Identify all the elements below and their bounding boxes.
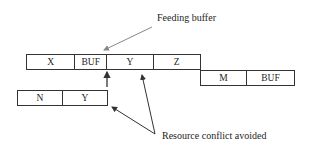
feeding-buffer-arrow-icon bbox=[104, 27, 152, 50]
conflict-arrow-to-critical-y-icon bbox=[142, 75, 155, 134]
diagram-canvas: X BUF Y Z M BUF N Y Feeding buffer Resou… bbox=[0, 0, 309, 150]
arrows-layer bbox=[0, 0, 309, 150]
conflict-arrow-to-feeding-y-icon bbox=[112, 107, 155, 134]
